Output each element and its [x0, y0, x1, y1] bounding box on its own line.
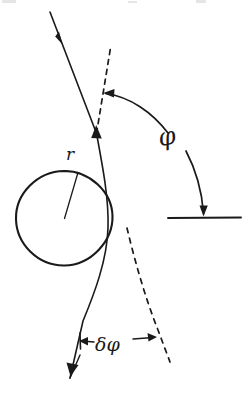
delta-phi-label: δφ — [95, 335, 120, 354]
phi-angle-label: φ — [156, 123, 178, 151]
outgoing-ray-arrowhead — [67, 363, 79, 377]
upper-dashed-asymptote — [97, 48, 111, 134]
lower-dashed-asymptote — [127, 228, 170, 362]
delta-phi-left-tick — [80, 333, 81, 349]
radius-line — [65, 173, 79, 219]
phi-arc-top-arrowhead — [103, 89, 115, 98]
diagram-canvas — [0, 0, 247, 396]
incoming-ray-arrowhead — [55, 32, 62, 45]
phi-arc-lower-segment — [186, 151, 204, 213]
delta-phi-right-arrowhead — [148, 333, 158, 342]
incoming-ray — [50, 12, 97, 134]
figure-root: r φ δφ — [0, 0, 247, 396]
horizontal-baseline — [168, 218, 241, 219]
radius-label: r — [66, 146, 74, 163]
phi-arc-bottom-arrowhead — [200, 206, 208, 217]
